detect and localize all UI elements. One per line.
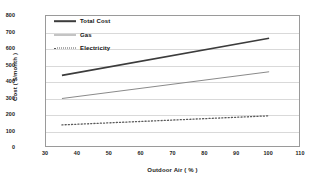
- legend-label: Total Cost: [80, 18, 110, 24]
- x-tick-label: 90: [223, 150, 249, 156]
- x-tick-label: 30: [32, 150, 58, 156]
- legend-item-gas: Gas: [54, 31, 110, 39]
- x-tick-label: 70: [160, 150, 186, 156]
- x-tick-label: 110: [287, 150, 313, 156]
- x-tick-label: 100: [255, 150, 281, 156]
- legend-label: Electricity: [80, 45, 110, 51]
- x-tick-label: 50: [96, 150, 122, 156]
- x-axis-title: Outdoor Air ( % ): [45, 167, 300, 173]
- legend-item-total-cost: Total Cost: [54, 17, 110, 25]
- x-tick-label: 80: [191, 150, 217, 156]
- legend-swatch-icon: [54, 31, 76, 39]
- series-line-gas: [62, 72, 269, 99]
- series-line-electricity: [62, 116, 269, 125]
- y-axis-title: Cost ( $/month ): [12, 12, 18, 142]
- legend-swatch-icon: [54, 44, 76, 52]
- x-tick-label: 40: [64, 150, 90, 156]
- legend: Total Cost Gas Electricity: [54, 17, 110, 52]
- legend-item-electricity: Electricity: [54, 44, 110, 52]
- legend-swatch-icon: [54, 17, 76, 25]
- x-tick-label: 60: [128, 150, 154, 156]
- line-chart: 800 700 600 500 400 300 200 100 0 30 40 …: [0, 0, 318, 182]
- y-tick-label: 0: [0, 144, 15, 150]
- legend-label: Gas: [80, 32, 92, 38]
